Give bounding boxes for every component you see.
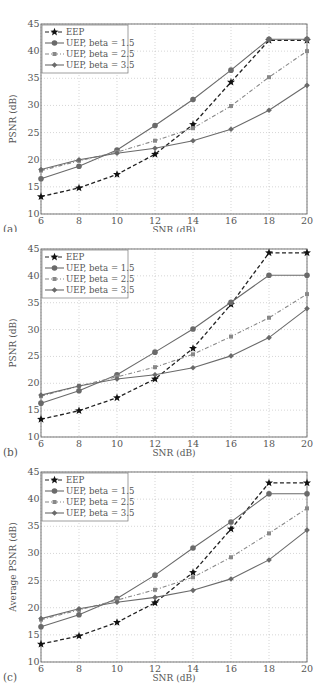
y-tick-label: 40 — [27, 493, 39, 504]
legend-label: UEP, beta = 3.5 — [66, 508, 135, 518]
data-point-marker — [151, 375, 159, 383]
data-point-marker — [228, 353, 234, 359]
data-point-marker — [265, 249, 273, 257]
y-tick-label: 10 — [27, 208, 39, 219]
data-point-marker — [152, 372, 158, 378]
grid — [41, 472, 307, 662]
data-point-marker — [77, 384, 81, 388]
grid — [41, 249, 307, 437]
data-point-marker — [37, 640, 45, 648]
data-point-marker — [114, 376, 120, 382]
y-tick-label: 45 — [27, 243, 39, 254]
y-tick-labels: 1015202530354045 — [27, 18, 39, 219]
x-tick-label: 10 — [111, 215, 123, 226]
data-point-marker — [115, 598, 119, 602]
legend-label: UEP, beta = 1.5 — [66, 263, 135, 273]
y-tick-label: 35 — [27, 520, 39, 531]
x-tick-label: 16 — [225, 438, 237, 449]
y-tick-label: 35 — [27, 297, 39, 308]
data-point-marker — [76, 612, 82, 618]
y-tick-label: 10 — [27, 656, 39, 667]
data-point-marker — [305, 292, 309, 296]
panel-label: (c) — [3, 671, 17, 683]
series-3 — [38, 306, 310, 398]
y-tick-label: 30 — [27, 547, 39, 558]
legend-label: UEP, beta = 2.5 — [66, 497, 135, 507]
legend-item: UEP, beta = 3.5 — [45, 285, 135, 295]
y-tick-label: 15 — [27, 629, 39, 640]
data-point-marker — [75, 406, 83, 414]
data-point-marker — [303, 249, 311, 257]
legend-marker — [53, 277, 57, 281]
legend-label: UEP, beta = 3.5 — [66, 285, 135, 295]
y-tick-label: 20 — [27, 602, 39, 613]
data-point-marker — [228, 127, 234, 133]
series-line — [41, 294, 307, 396]
data-point-marker — [115, 375, 119, 379]
x-tick-label: 12 — [149, 663, 161, 674]
data-point-marker — [114, 372, 120, 378]
x-tick-label: 8 — [76, 215, 82, 226]
data-point-marker — [38, 400, 44, 406]
legend-label: UEP, beta = 3.5 — [66, 60, 135, 70]
x-tick-label: 8 — [76, 438, 82, 449]
series-line — [41, 483, 307, 644]
data-point-marker — [191, 126, 195, 130]
y-tick-label: 40 — [27, 45, 39, 56]
data-point-marker — [190, 326, 196, 332]
data-point-marker — [191, 575, 195, 579]
series-2 — [39, 292, 309, 398]
data-point-marker — [304, 527, 310, 533]
data-point-marker — [303, 479, 311, 487]
y-axis-label: PSNR (dB) — [8, 318, 18, 367]
y-tick-labels: 1015202530354045 — [27, 466, 39, 667]
data-point-marker — [152, 123, 158, 129]
data-point-marker — [266, 491, 272, 497]
y-tick-label: 45 — [27, 18, 39, 29]
legend-item: EEP — [45, 252, 85, 262]
y-tick-label: 15 — [27, 404, 39, 415]
data-point-marker — [113, 394, 121, 402]
legend-marker — [53, 500, 57, 504]
y-tick-label: 25 — [27, 350, 39, 361]
series-0 — [37, 479, 311, 648]
data-point-marker — [227, 525, 235, 533]
legend-marker — [51, 476, 59, 484]
chart-a: 681012141618201015202530354045SNR (dB)PS… — [0, 0, 329, 232]
data-point-marker — [37, 415, 45, 423]
x-axis-label: SNR (dB) — [152, 673, 195, 683]
legend-label: EEP — [66, 252, 85, 262]
series-line — [41, 309, 307, 396]
legend-marker — [52, 265, 58, 271]
legend-marker — [53, 52, 57, 56]
data-point-marker — [305, 49, 309, 53]
legend-label: EEP — [66, 475, 85, 485]
y-tick-label: 25 — [27, 575, 39, 586]
legend-item: EEP — [45, 475, 85, 485]
data-point-marker — [38, 616, 44, 622]
data-point-marker — [190, 588, 196, 594]
data-point-marker — [76, 388, 82, 394]
y-tick-labels: 1015202530354045 — [27, 243, 39, 442]
data-point-marker — [266, 36, 272, 42]
legend-marker — [52, 40, 58, 46]
series-line — [41, 275, 307, 403]
x-tick-label: 14 — [187, 438, 199, 449]
data-point-marker — [113, 618, 121, 626]
data-point-marker — [229, 335, 233, 339]
data-point-marker — [153, 139, 157, 143]
data-point-marker — [152, 349, 158, 355]
legend: EEPUEP, beta = 1.5UEP, beta = 2.5UEP, be… — [42, 250, 135, 298]
legend-item: UEP, beta = 2.5 — [45, 274, 135, 284]
x-tick-label: 18 — [263, 215, 275, 226]
y-tick-label: 10 — [27, 431, 39, 442]
data-point-marker — [76, 383, 82, 389]
x-tick-label: 20 — [301, 663, 313, 674]
y-axis-label: PSNR (dB) — [8, 94, 18, 143]
data-point-marker — [75, 632, 83, 640]
data-point-marker — [77, 608, 81, 612]
data-point-marker — [267, 75, 271, 79]
data-point-marker — [152, 146, 158, 152]
data-point-marker — [228, 519, 234, 525]
data-point-marker — [305, 506, 309, 510]
